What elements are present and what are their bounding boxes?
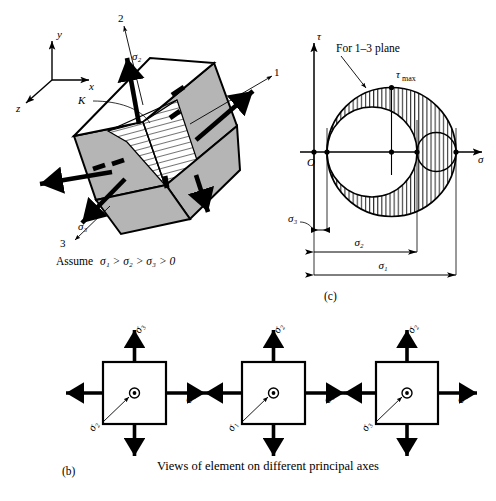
tau-axis-label: τ	[317, 30, 322, 42]
stress-element-figure: y x z K 1 2 3	[0, 0, 496, 501]
panel-c-mohr-circles: τ σ O τ max For 1–3 plane	[288, 30, 484, 303]
panel-a-cube-diagram: y x z K 1 2 3	[15, 12, 280, 267]
element-2-sigma1-label: σ₁	[224, 419, 239, 433]
sigma3-label-cube: σ₃	[78, 220, 87, 232]
principal-axis-2-label: 2	[118, 12, 124, 24]
plane-K-label: K	[77, 94, 86, 106]
principal-axis-1-label: 1	[274, 66, 280, 78]
assume-word: Assume	[56, 255, 93, 267]
principal-axis-3-label: 3	[60, 237, 66, 249]
tau-max-label-group: τ max	[396, 68, 416, 83]
x-axis-label: x	[88, 80, 94, 92]
panel-b-caption: Views of element on different principal …	[157, 459, 379, 473]
assume-inequality: σ₁ > σ₂ > σ₃ > 0	[100, 255, 176, 267]
dim-arrow-sigma3-right	[323, 227, 330, 233]
sigma1-label-cube: σ₁	[238, 91, 247, 103]
element-1-out-of-plane-dot	[133, 391, 137, 395]
dim-label-sigma1: σ₁	[378, 259, 387, 271]
z-axis-line	[26, 80, 52, 103]
y-axis-label: y	[56, 28, 62, 40]
element-view-3: σ₃ σ₂ σ₁	[344, 321, 477, 456]
sigma2-label-cube: σ₂	[132, 50, 141, 62]
element-1-sigma2-label: σ₂	[85, 419, 100, 433]
element-view-2: σ₁ σ₂ σ₃	[205, 321, 344, 456]
element-2-out-of-plane-dot	[272, 391, 276, 395]
element-3-out-of-plane-dot	[405, 391, 409, 395]
tick-front-1	[165, 176, 167, 188]
z-axis-label: z	[15, 102, 21, 114]
assume-note: Assume σ₁ > σ₂ > σ₃ > 0	[56, 255, 176, 267]
panel-b-label: (b)	[62, 465, 76, 478]
element-3-sigma3-label: σ₃	[358, 419, 373, 433]
element-view-1: σ₂ σ₃ σ₁	[66, 321, 205, 456]
dim-label-sigma3: σ₃	[288, 212, 297, 224]
mohr-annotation-leader	[341, 56, 366, 88]
panel-c-label: (c)	[324, 290, 337, 303]
tau-max-label: τ	[396, 68, 401, 80]
sigma-axis-label: σ	[478, 153, 484, 165]
dim-label-sigma2: σ₂	[354, 236, 363, 248]
tau-max-sub: max	[402, 74, 416, 83]
mohr-annotation-text: For 1–3 plane	[336, 42, 400, 55]
